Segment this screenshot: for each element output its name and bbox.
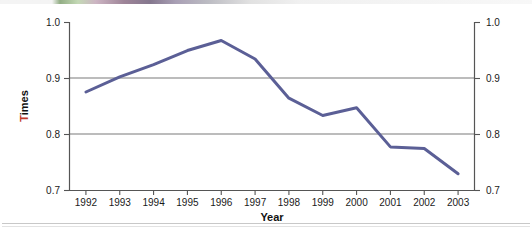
line-chart: 1.0 0.9 0.8 0.7 1.0 0.9 0.8 0.7 19921993… [0,0,532,241]
left-tick-label-1.0: 1.0 [46,17,60,28]
gridlines [69,78,475,134]
chart-screenshot: 1.0 0.9 0.8 0.7 1.0 0.9 0.8 0.7 19921993… [0,0,532,241]
right-axis-ticks [475,23,480,191]
right-tick-label-0.8: 0.8 [486,129,500,140]
svg-text:Times: Times [18,90,30,122]
year-tick-label-1997: 1997 [244,197,267,208]
y-axis-title: Times [18,90,30,122]
year-tick-label-1996: 1996 [210,197,233,208]
left-tick-label-0.9: 0.9 [46,73,60,84]
year-tick-label-2000: 2000 [345,197,368,208]
right-tick-label-0.7: 0.7 [486,185,500,196]
year-tick-label-1994: 1994 [142,197,165,208]
x-axis-title: Year [260,211,284,223]
left-axis-ticks [64,23,69,191]
year-tick-label-2002: 2002 [413,197,436,208]
axis-frame [69,22,475,191]
right-tick-label-1.0: 1.0 [486,17,500,28]
year-tick-label-2001: 2001 [379,197,402,208]
chart-svg: 1.0 0.9 0.8 0.7 1.0 0.9 0.8 0.7 19921993… [0,0,532,241]
right-tick-label-0.9: 0.9 [486,73,500,84]
y-axis-title-rest: imes [18,90,30,115]
year-tick-label-1993: 1993 [109,197,132,208]
year-axis-tick-labels: 1992199319941995199619971998199920002001… [75,197,470,208]
year-tick-label-1992: 1992 [75,197,98,208]
year-tick-label-2003: 2003 [447,197,470,208]
left-tick-label-0.8: 0.8 [46,129,60,140]
year-tick-label-1998: 1998 [278,197,301,208]
left-axis-tick-labels: 1.0 0.9 0.8 0.7 [46,17,60,196]
left-tick-label-0.7: 0.7 [46,185,60,196]
year-tick-label-1995: 1995 [176,197,199,208]
times-series-line [86,40,458,173]
right-axis-tick-labels: 1.0 0.9 0.8 0.7 [486,17,500,196]
year-tick-label-1999: 1999 [312,197,335,208]
